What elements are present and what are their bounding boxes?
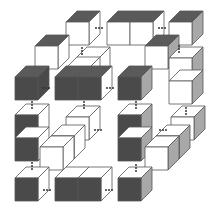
connector-dot [31, 162, 33, 164]
connector-dot [42, 87, 44, 89]
connector-dot [105, 189, 107, 191]
connector-dots [83, 101, 85, 109]
cube [35, 35, 69, 69]
connector-dot [112, 87, 114, 89]
connector-dot [101, 27, 103, 29]
connector-dot [161, 27, 163, 29]
cube [15, 167, 49, 201]
connector-dot [81, 53, 83, 55]
connector-dots [135, 164, 137, 172]
connector-dot [81, 47, 83, 49]
connector-dot [178, 45, 180, 47]
connector-dot [106, 87, 108, 89]
cube-front-face [169, 81, 192, 104]
connector-dot [48, 87, 50, 89]
cube-front-face [15, 178, 38, 201]
connector-dots [81, 47, 83, 55]
connector-dot [178, 51, 180, 53]
cube-front-face [107, 22, 130, 45]
cube [66, 11, 100, 45]
connector-dot [135, 167, 137, 169]
connector-dots [43, 189, 51, 191]
cube-front-face [55, 178, 78, 201]
cube-front-face [118, 138, 141, 161]
connector-dots [31, 162, 33, 170]
connector-dot [135, 101, 137, 103]
connector-dot [165, 129, 167, 131]
cube-front-face [15, 77, 38, 100]
connector-dots [105, 189, 113, 191]
connector-dot [31, 168, 33, 170]
connector-dot [31, 107, 33, 109]
cube-front-face [145, 147, 168, 170]
cube [118, 167, 152, 201]
connector-dot [162, 129, 164, 131]
cube-front-face [118, 178, 141, 201]
connector-dot [98, 27, 100, 29]
connector-dot [97, 129, 99, 131]
connector-dot [83, 101, 85, 103]
connector-dot [31, 101, 33, 103]
cube-front-face [78, 77, 101, 100]
connector-dots [158, 27, 166, 29]
cube-figure [0, 0, 217, 213]
cube-front-face [78, 178, 101, 201]
connector-dot [159, 129, 161, 131]
connector-dot [185, 113, 187, 115]
connector-dot [185, 110, 187, 112]
cube-front-face [40, 147, 63, 170]
connector-dot [81, 50, 83, 52]
connector-dot [94, 129, 96, 131]
connector-dot [158, 27, 160, 29]
connector-dot [111, 189, 113, 191]
connector-dots [135, 101, 137, 109]
connector-dot [100, 129, 102, 131]
connector-dots [185, 107, 187, 115]
connector-dot [43, 189, 45, 191]
connector-dot [135, 107, 137, 109]
cube-front-face [145, 46, 168, 69]
connector-dots [42, 87, 50, 89]
connector-dots [159, 129, 167, 131]
connector-dot [108, 189, 110, 191]
connector-dot [31, 104, 33, 106]
cube-lattice-diagram [0, 0, 217, 213]
connector-dot [83, 107, 85, 109]
connector-dot [178, 48, 180, 50]
cube [118, 66, 152, 100]
cube [15, 66, 49, 100]
connector-dot [49, 189, 51, 191]
connector-dot [45, 87, 47, 89]
connector-dot [185, 107, 187, 109]
cube-front-face [15, 138, 38, 161]
connector-dot [109, 87, 111, 89]
connector-dot [164, 27, 166, 29]
cube-front-face [35, 46, 58, 69]
connector-dot [83, 104, 85, 106]
connector-dots [95, 27, 103, 29]
cube-front-face [66, 22, 89, 45]
cube-front-face [55, 77, 78, 100]
connector-dot [135, 170, 137, 172]
connector-dots [94, 129, 102, 131]
connector-dot [31, 165, 33, 167]
connector-dot [95, 27, 97, 29]
connector-dots [106, 87, 114, 89]
cube-front-face [118, 77, 141, 100]
connector-dots [178, 45, 180, 53]
connector-dot [46, 189, 48, 191]
connector-dot [135, 104, 137, 106]
connector-dot [135, 164, 137, 166]
connector-dots [31, 101, 33, 109]
